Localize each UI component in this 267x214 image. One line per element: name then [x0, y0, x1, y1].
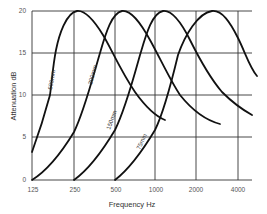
curve-label-600mm: 600mm	[47, 69, 56, 90]
x-tick-500: 500	[111, 186, 122, 193]
y-axis-title: Attenuation dB	[9, 71, 18, 120]
x-tick-250: 250	[70, 186, 81, 193]
y-tick-15: 15	[19, 49, 27, 56]
y-tick-labels: 20 15 10 5 0	[19, 7, 27, 183]
x-tick-1000: 1000	[149, 186, 164, 193]
curve-150mm	[74, 11, 252, 180]
x-tick-labels: 125 250 500 1000 2000 4000	[28, 186, 246, 193]
attenuation-chart: 20 15 10 5 0 125 250 500 1000 2000 4000 …	[0, 0, 267, 214]
y-tick-20: 20	[19, 7, 27, 14]
x-axis-title: Frequency Hz	[109, 200, 156, 209]
curve-label-75mm: 75mm	[135, 133, 147, 151]
y-tick-5: 5	[22, 133, 26, 140]
y-tick-10: 10	[19, 91, 27, 98]
horizontal-gridlines	[32, 11, 252, 180]
x-tick-4000: 4000	[231, 186, 246, 193]
curve-75mm	[115, 11, 257, 180]
x-tick-125: 125	[28, 186, 39, 193]
y-tick-0: 0	[22, 176, 26, 183]
x-tick-2000: 2000	[189, 186, 204, 193]
curve-label-300mm: 300mm	[87, 64, 98, 85]
vertical-gridlines	[32, 11, 238, 180]
